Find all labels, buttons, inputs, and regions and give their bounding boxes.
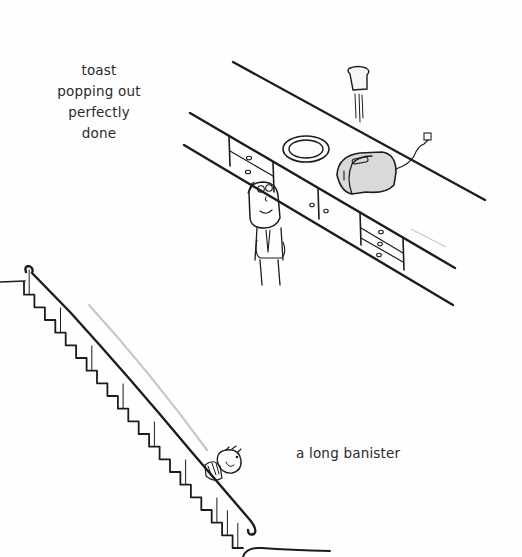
person-smile [260,210,272,213]
staircase [24,282,243,548]
floor-line [243,548,330,557]
cabinet-knob [324,209,328,213]
person-eye [266,185,273,192]
cabinet-divider [318,188,319,219]
toaster-body [337,152,396,194]
drawer-line [230,151,273,176]
toast-motion-lines [355,94,363,122]
drawer-line [361,228,403,253]
person-tie [266,230,270,252]
slider-stripes [208,463,219,477]
slider-smile [226,462,234,466]
drawer-knob [378,242,383,246]
banister-drawing [0,266,330,557]
stair-landing [0,281,25,282]
drawer-knob [379,230,384,234]
person-arms [256,240,285,258]
kitchen-counter-drawing [184,62,485,305]
wall-outlet [424,133,431,140]
flying-toast [348,67,369,91]
plate-inner [289,140,323,158]
person-looking-up [248,182,285,285]
cabinet-knob [310,203,314,207]
balusters [29,270,238,548]
drawer-knob [377,253,382,257]
cabinet-bottom-edge [184,145,453,305]
handrail [25,266,255,535]
person-nose [265,197,267,201]
drawer-knob [246,170,251,174]
cabinet-divider [273,162,274,192]
person-legs [260,260,280,285]
drawer-knob [247,156,252,160]
drawing-canvas [0,0,522,557]
slider-hair [226,446,241,452]
illustration-page: toast popping out perfectly done a long … [0,0,522,557]
drawer-line [361,238,403,262]
slide-motion-streak [89,305,207,450]
slider-eye [236,456,239,459]
cabinet-divider [403,238,404,270]
